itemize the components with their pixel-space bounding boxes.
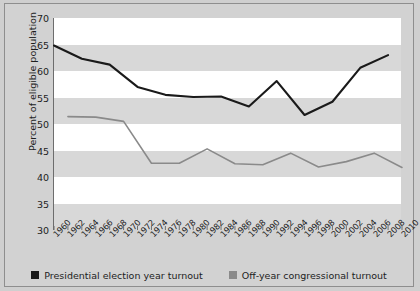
plot-area (53, 18, 401, 230)
legend-item: Off-year congressional turnout (229, 270, 387, 281)
series-line (54, 46, 388, 115)
legend-item: Presidential election year turnout (31, 270, 202, 281)
y-axis-tick: 35 (37, 198, 49, 209)
y-axis-tick: 30 (37, 225, 49, 236)
y-axis-tick: 55 (37, 92, 49, 103)
series-line (68, 117, 402, 168)
legend-label: Presidential election year turnout (44, 270, 202, 281)
legend-swatch-icon (229, 271, 237, 279)
y-axis-tick: 45 (37, 145, 49, 156)
y-axis-tick: 40 (37, 172, 49, 183)
data-series-lines (54, 18, 401, 229)
x-axis-tick-labels: 1960196219641966196819701972197419761978… (53, 232, 401, 266)
y-axis-tick: 70 (37, 13, 49, 24)
y-axis-tick: 65 (37, 39, 49, 50)
y-axis-tick: 60 (37, 66, 49, 77)
y-axis-tick-labels: 706560555045403530 (21, 18, 49, 230)
legend-swatch-icon (31, 271, 39, 279)
chart-legend: Presidential election year turnoutOff-ye… (5, 267, 413, 283)
chart-figure: Percent of eligible population 706560555… (4, 3, 414, 287)
y-axis-tick: 50 (37, 119, 49, 130)
legend-label: Off-year congressional turnout (242, 270, 387, 281)
